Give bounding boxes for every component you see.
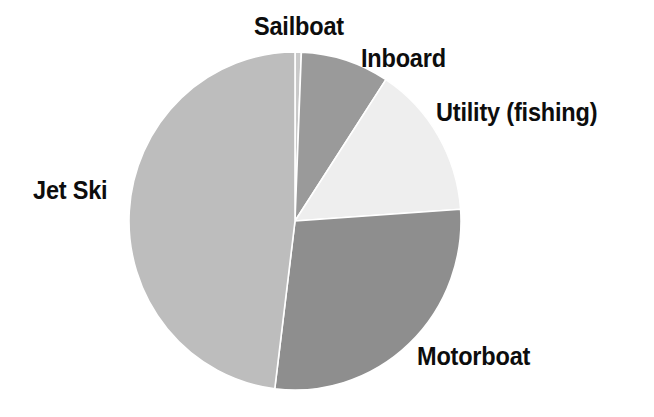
pie-slice-jet-ski	[129, 52, 295, 389]
pie-chart: Sailboat Inboard Utility (fishing) Jet S…	[0, 0, 654, 417]
pie-chart-canvas	[0, 0, 654, 417]
pie-label-sailboat: Sailboat	[254, 12, 344, 40]
pie-label-utility-fishing: Utility (fishing)	[436, 98, 597, 126]
pie-slice-group	[129, 52, 461, 390]
pie-label-jet-ski: Jet Ski	[33, 176, 107, 204]
pie-label-inboard: Inboard	[361, 44, 446, 72]
pie-label-motorboat: Motorboat	[417, 342, 530, 370]
